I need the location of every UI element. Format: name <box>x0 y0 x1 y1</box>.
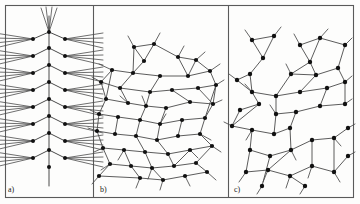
graph-node-b <box>132 45 136 49</box>
graph-node-a <box>47 148 51 152</box>
graph-node-b <box>176 55 180 59</box>
graph-node-c <box>250 90 254 94</box>
graph-node-b <box>166 152 170 156</box>
graph-node-a <box>31 71 35 75</box>
graph-node-b <box>186 74 190 78</box>
graph-node-c <box>318 36 322 40</box>
graph-node-b <box>158 74 162 78</box>
graph-node-a <box>47 46 51 50</box>
graph-node-a <box>31 139 35 143</box>
graph-node-c <box>288 174 292 178</box>
panel-label-c: c) <box>234 186 240 194</box>
graph-node-c <box>274 94 278 98</box>
graph-node-c <box>250 128 254 132</box>
graph-node-c <box>257 102 261 106</box>
graph-node-b <box>143 150 147 154</box>
graph-node-c <box>343 43 347 47</box>
figure-container: a) b) c) <box>0 0 360 204</box>
graph-node-c <box>266 168 270 172</box>
graph-node-b <box>208 69 212 73</box>
graph-node-c <box>230 124 234 128</box>
graph-node-c <box>272 132 276 136</box>
graph-node-c <box>274 112 278 116</box>
graph-node-b <box>188 100 192 104</box>
graph-node-b <box>158 122 162 126</box>
graph-node-a <box>47 30 51 34</box>
graph-node-a <box>47 63 51 67</box>
graph-node-a <box>47 131 51 135</box>
graph-node-a <box>63 37 67 41</box>
graph-node-b <box>108 162 112 166</box>
graph-node-c <box>250 38 254 42</box>
graph-node-b <box>134 134 138 138</box>
graph-node-a <box>31 88 35 92</box>
graph-node-b <box>210 144 214 148</box>
graph-node-c <box>261 56 265 60</box>
graph-node-a <box>47 165 51 169</box>
graph-node-b <box>196 86 200 90</box>
graph-node-b <box>198 132 202 136</box>
graph-node-a <box>63 105 67 109</box>
graph-node-b <box>211 102 215 106</box>
graph-node-b <box>205 170 209 174</box>
graph-node-b <box>164 106 168 110</box>
graph-node-c <box>325 86 329 90</box>
graph-node-b <box>122 148 126 152</box>
graph-node-c <box>343 102 347 106</box>
network-figure-svg <box>0 0 360 204</box>
graph-node-a <box>63 88 67 92</box>
graph-node-b <box>203 116 207 120</box>
graph-node-b <box>194 58 198 62</box>
graph-node-b <box>144 104 148 108</box>
graph-node-b <box>183 174 187 178</box>
graph-node-b <box>138 118 142 122</box>
graph-node-b <box>188 148 192 152</box>
graph-node-c <box>298 90 302 94</box>
graph-node-a <box>31 37 35 41</box>
graph-node-c <box>336 66 340 70</box>
panel-label-a: a) <box>8 186 14 194</box>
graph-node-b <box>150 166 154 170</box>
graph-node-c <box>346 154 350 158</box>
graph-node-b <box>180 118 184 122</box>
graph-node-c <box>332 136 336 140</box>
graph-node-b <box>95 129 99 133</box>
graph-node-b <box>172 164 176 168</box>
graph-node-b <box>113 132 117 136</box>
graph-node-c <box>272 34 276 38</box>
graph-node-c <box>289 148 293 152</box>
graph-node-c <box>332 170 336 174</box>
graph-node-b <box>126 101 130 105</box>
graph-node-c <box>298 43 302 47</box>
graph-node-b <box>131 71 135 75</box>
graph-node-b <box>99 80 103 84</box>
graph-node-c <box>346 126 350 130</box>
graph-node-b <box>214 83 218 87</box>
graph-node-c <box>288 126 292 130</box>
graph-node-b <box>97 112 101 116</box>
graph-node-a <box>31 105 35 109</box>
graph-node-b <box>170 88 174 92</box>
graph-node-a <box>31 54 35 58</box>
graph-node-b <box>129 164 133 168</box>
graph-node-b <box>155 138 159 142</box>
graph-node-c <box>268 154 272 158</box>
graph-node-a <box>31 156 35 160</box>
graph-node-c <box>244 170 248 174</box>
graph-node-b <box>194 161 198 165</box>
graph-node-c <box>289 72 293 76</box>
graph-node-b <box>110 68 114 72</box>
graph-node-a <box>47 80 51 84</box>
graph-node-c <box>303 184 307 188</box>
graph-node-b <box>176 134 180 138</box>
graph-node-c <box>294 110 298 114</box>
graph-node-c <box>318 104 322 108</box>
graph-node-b <box>101 146 105 150</box>
graph-node-b <box>142 59 146 63</box>
graph-node-a <box>63 54 67 58</box>
graph-node-a <box>63 122 67 126</box>
graph-node-b <box>97 174 101 178</box>
graph-node-a <box>63 139 67 143</box>
graph-node-b <box>104 97 108 101</box>
panel-label-b: b) <box>100 186 107 194</box>
